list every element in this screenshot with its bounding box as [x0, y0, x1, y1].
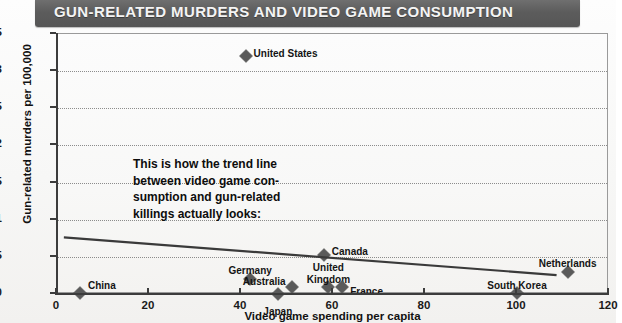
y-axis-line — [56, 33, 58, 294]
y-tick-mark — [50, 143, 56, 145]
y-tick-mark — [50, 218, 56, 220]
x-tick-mark — [331, 288, 333, 295]
x-axis-title: Video game spending per capita — [56, 310, 609, 322]
x-tick-mark — [55, 288, 57, 295]
y-tick-label: 1.5 — [0, 175, 2, 187]
chart-title-banner: GUN-RELATED MURDERS AND VIDEO GAME CONSU… — [35, 0, 580, 27]
chart-title: GUN-RELATED MURDERS AND VIDEO GAME CONSU… — [54, 3, 513, 20]
y-tick-mark — [50, 106, 56, 108]
trend-annotation: This is how the trend line between video… — [133, 156, 323, 222]
y-tick-mark — [50, 69, 56, 71]
annotation-line-3: sumption and gun-related — [133, 189, 323, 206]
y-tick-label: 0.5 — [0, 249, 2, 261]
y-tick-label: 3 — [0, 63, 2, 75]
y-tick-label: 2.5 — [0, 100, 2, 112]
y-tick-mark — [50, 181, 56, 183]
y-tick-label: 2 — [0, 137, 2, 149]
y-tick-label: 0 — [0, 286, 2, 298]
x-tick-mark — [239, 288, 241, 295]
y-tick-label: 3.5 — [0, 26, 2, 38]
x-tick-mark — [147, 288, 149, 295]
y-tick-label: 1 — [0, 212, 2, 224]
y-tick-mark — [50, 255, 56, 257]
x-tick-mark — [607, 288, 609, 295]
x-tick-mark — [423, 288, 425, 295]
y-tick-mark — [50, 32, 56, 34]
annotation-line-1: This is how the trend line — [133, 156, 323, 173]
annotation-line-2: between video game con- — [133, 173, 323, 190]
annotation-line-4: killings actually looks: — [133, 206, 323, 223]
y-axis-title: Gun-related murders per 100,000 — [21, 29, 33, 239]
x-tick-mark — [515, 288, 517, 295]
